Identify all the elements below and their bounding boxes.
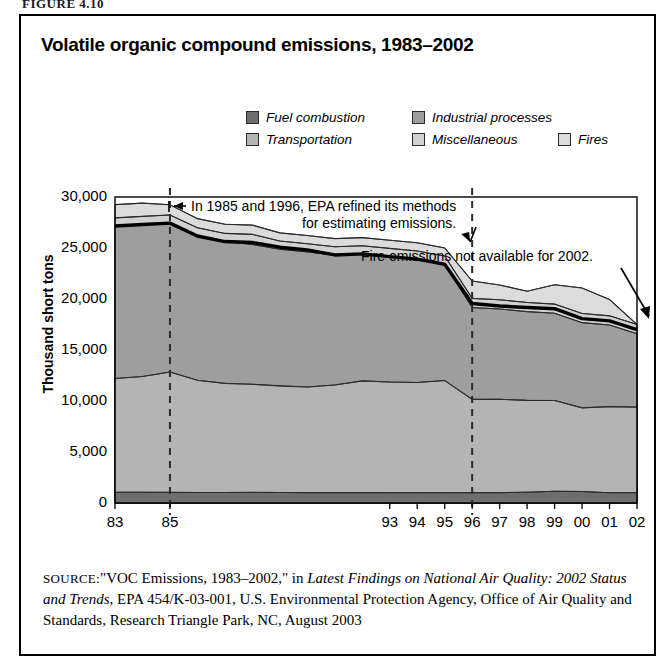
source-note: SOURCE:"VOC Emissions, 1983–2002," in La…	[43, 568, 643, 631]
x-tick-94: 94	[402, 513, 432, 530]
source-label: SOURCE:	[43, 571, 100, 586]
x-tick-02: 02	[622, 513, 652, 530]
x-tick-93: 93	[375, 513, 405, 530]
source-text-2: EPA 454/K-03-001, U.S. Environmental Pro…	[43, 591, 632, 628]
legend-item-industrial-processes[interactable]: Industrial processes	[412, 110, 552, 125]
legend-row-2: Transportation Miscellaneous Fires	[21, 128, 658, 150]
figure-box: Volatile organic compound emissions, 198…	[19, 14, 656, 656]
y-tick-5000: 5,000	[35, 442, 107, 459]
x-tick-97: 97	[485, 513, 515, 530]
legend-swatch-industrial-processes	[412, 111, 425, 124]
x-tick-00: 00	[567, 513, 597, 530]
y-tick-10000: 10,000	[35, 391, 107, 408]
x-tick-83: 83	[100, 513, 130, 530]
y-tick-0: 0	[35, 493, 107, 510]
legend-item-transportation[interactable]: Transportation	[246, 132, 392, 147]
legend-row-1: Fuel combustion Industrial processes	[21, 106, 658, 128]
y-tick-30000: 30,000	[35, 187, 107, 204]
legend-swatch-transportation	[246, 133, 259, 146]
x-tick-85: 85	[155, 513, 185, 530]
y-tick-15000: 15,000	[35, 340, 107, 357]
x-tick-95: 95	[430, 513, 460, 530]
x-tick-01: 01	[595, 513, 625, 530]
legend-label-fires: Fires	[578, 132, 608, 147]
figure-caption: FIGURE 4.10	[22, 0, 104, 10]
legend-item-fuel-combustion[interactable]: Fuel combustion	[246, 110, 392, 125]
x-tick-99: 99	[540, 513, 570, 530]
legend-swatch-fuel-combustion	[246, 111, 259, 124]
legend-label-fuel-combustion: Fuel combustion	[266, 110, 365, 125]
annotation-fires-2002: Fire emissions not available for 2002.	[361, 248, 593, 265]
x-tick-98: 98	[512, 513, 542, 530]
legend-label-miscellaneous: Miscellaneous	[432, 132, 518, 147]
legend-swatch-miscellaneous	[412, 133, 425, 146]
annotation-epa-methods-line1: In 1985 and 1996, EPA refined its method…	[191, 198, 456, 215]
legend-swatch-fires	[558, 133, 571, 146]
legend-label-industrial-processes: Industrial processes	[432, 110, 552, 125]
y-tick-25000: 25,000	[35, 238, 107, 255]
x-tick-96: 96	[457, 513, 487, 530]
legend-item-fires[interactable]: Fires	[558, 132, 608, 147]
chart-legend: Fuel combustion Industrial processes Tra…	[21, 106, 658, 150]
legend-label-transportation: Transportation	[266, 132, 352, 147]
legend-item-miscellaneous[interactable]: Miscellaneous	[412, 132, 538, 147]
y-axis-label: Thousand short tons	[40, 229, 56, 419]
chart-title: Volatile organic compound emissions, 198…	[41, 34, 474, 56]
annotation-epa-methods-line2: for estimating emissions.	[191, 215, 456, 232]
source-text-1: "VOC Emissions, 1983–2002," in	[100, 570, 307, 586]
annotation-epa-methods: In 1985 and 1996, EPA refined its method…	[191, 198, 456, 232]
y-tick-20000: 20,000	[35, 289, 107, 306]
